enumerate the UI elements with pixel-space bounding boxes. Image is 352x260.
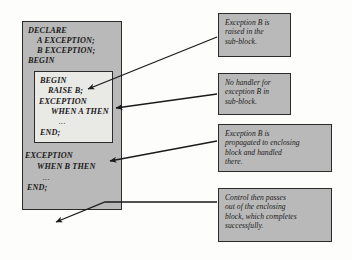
callout-4-line-1: Control then passes — [225, 193, 326, 202]
code-line-raise-b: RAISE B; — [48, 86, 83, 95]
callout-1-line-2: raised in the — [225, 27, 285, 36]
code-line-a-exception: A EXCEPTION; — [37, 36, 95, 45]
arrow-to-when-b-then — [110, 141, 217, 161]
callout-4-line-2: out of the enclosing — [225, 202, 326, 211]
code-line-when-b-then: WHEN B THEN — [37, 162, 95, 171]
code-line-b-exception: B EXCEPTION; — [37, 46, 95, 55]
code-line-exception-outer: EXCEPTION — [25, 151, 73, 160]
code-line-declare: DECLARE — [28, 26, 67, 35]
callout-4-line-4: successfully. — [225, 221, 326, 230]
callout-3-line-1: Exception B is — [225, 129, 326, 138]
code-line-end-outer: END; — [27, 183, 47, 192]
code-line-when-a-then: WHEN A THEN — [51, 107, 109, 116]
diagram-canvas: DECLARE A EXCEPTION; B EXCEPTION; BEGIN … — [0, 0, 352, 260]
callout-3-line-3: block and handled — [225, 148, 326, 157]
callout-4-line-3: block, which completes — [225, 212, 326, 221]
code-line-end-inner: END; — [40, 128, 60, 137]
callout-exception-raised: Exception B is raised in the sub-block. — [218, 13, 291, 57]
callout-1-line-1: Exception B is — [225, 18, 285, 27]
callout-control-passes: Control then passes out of the enclosing… — [218, 188, 332, 242]
callout-2-line-2: exception B in — [225, 87, 285, 96]
callout-2-line-1: No handler for — [225, 78, 285, 87]
callout-1-line-3: sub-block. — [225, 37, 285, 46]
code-line-begin-inner: BEGIN — [40, 76, 66, 85]
code-line-exception-inner: EXCEPTION — [39, 97, 87, 106]
callout-2-line-3: sub-block. — [225, 97, 285, 106]
code-line-ellipsis-inner: ... — [59, 118, 66, 127]
code-line-begin-outer: BEGIN — [28, 56, 54, 65]
sub-block: BEGIN RAISE B; EXCEPTION WHEN A THEN ...… — [34, 71, 113, 143]
arrow-to-when-a-then — [116, 94, 217, 108]
callout-3-line-4: there. — [225, 157, 326, 166]
callout-no-handler: No handler for exception B in sub-block. — [218, 73, 291, 115]
enclosing-block: DECLARE A EXCEPTION; B EXCEPTION; BEGIN … — [22, 21, 122, 210]
code-line-ellipsis-outer: ... — [43, 174, 50, 183]
callout-propagated: Exception B is propagated to enclosing b… — [218, 124, 332, 172]
callout-3-line-2: propagated to enclosing — [225, 138, 326, 147]
